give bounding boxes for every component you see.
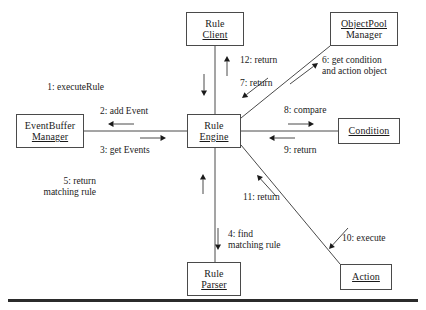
message-text-line1: 3: get Events: [100, 145, 190, 156]
object-box-eventbuffer-manager: EventBufferManager: [16, 114, 84, 148]
message-text-line2: matching rule: [10, 187, 96, 198]
message-label-6: 6: get conditionand action object: [322, 55, 422, 77]
message-arrow: [201, 74, 207, 96]
page-divider-rule: [8, 299, 418, 302]
message-text-line1: 12: return: [240, 55, 310, 66]
object-box-action: Action: [340, 264, 392, 290]
object-box-rule-engine: RuleEngine: [187, 114, 241, 148]
object-label-line2: Client: [202, 29, 227, 41]
message-arrow: [140, 135, 166, 141]
message-text-line1: 4: find: [228, 229, 318, 240]
object-label-line1: Condition: [349, 125, 390, 137]
message-text-line1: 9: return: [284, 145, 354, 156]
message-text-line1: 2: add Event: [100, 106, 190, 117]
message-label-8: 8: compare: [284, 105, 364, 116]
message-text-line2: matching rule: [228, 240, 318, 251]
message-label-1: 1: executeRule: [9, 82, 104, 93]
message-text-line1: 5: return: [10, 176, 96, 187]
message-label-4: 4: findmatching rule: [228, 229, 318, 251]
message-arrow: [269, 135, 295, 141]
message-arrow: [108, 121, 134, 127]
object-label-line2: Manager: [32, 131, 68, 143]
message-label-7: 7: return: [240, 78, 310, 89]
message-text-line1: 1: executeRule: [9, 82, 104, 93]
object-label-line2: Manager: [346, 29, 382, 41]
message-text-line1: 7: return: [240, 78, 310, 89]
message-text-line1: 6: get condition: [322, 55, 422, 66]
message-arrow: [200, 174, 206, 194]
message-label-9: 9: return: [284, 145, 354, 156]
message-label-2: 2: add Event: [100, 106, 190, 117]
message-arrow: [224, 56, 230, 76]
message-label-11: 11: return: [243, 192, 313, 203]
message-text-line1: 8: compare: [284, 105, 364, 116]
message-label-12: 12: return: [240, 55, 310, 66]
message-label-3: 3: get Events: [100, 145, 190, 156]
object-box-rule-client: RuleClient: [186, 12, 244, 46]
message-text-line1: 10: execute: [342, 233, 418, 244]
object-box-condition: Condition: [338, 118, 400, 144]
object-label-line1: Action: [352, 271, 380, 283]
collaboration-diagram: RuleClientObjectPoolManagerEventBufferMa…: [0, 0, 426, 310]
object-label-line1: Rule: [205, 18, 224, 30]
object-label-line1: EventBuffer: [25, 120, 75, 132]
object-box-rule-parser: RuleParser: [187, 262, 241, 296]
message-text-line1: 11: return: [243, 192, 313, 203]
message-arrow: [215, 228, 221, 250]
object-label-line1: Rule: [204, 120, 223, 132]
message-label-5: 5: returnmatching rule: [10, 176, 96, 198]
object-label-line1: ObjectPool: [341, 18, 387, 30]
message-arrow: [288, 121, 314, 127]
object-label-line2: Parser: [201, 279, 227, 291]
message-label-10: 10: execute: [342, 233, 418, 244]
object-label-line1: Rule: [204, 268, 223, 280]
object-label-line2: Engine: [200, 131, 229, 143]
message-text-line2: and action object: [322, 66, 422, 77]
object-box-objectpool-manager: ObjectPoolManager: [330, 12, 398, 46]
